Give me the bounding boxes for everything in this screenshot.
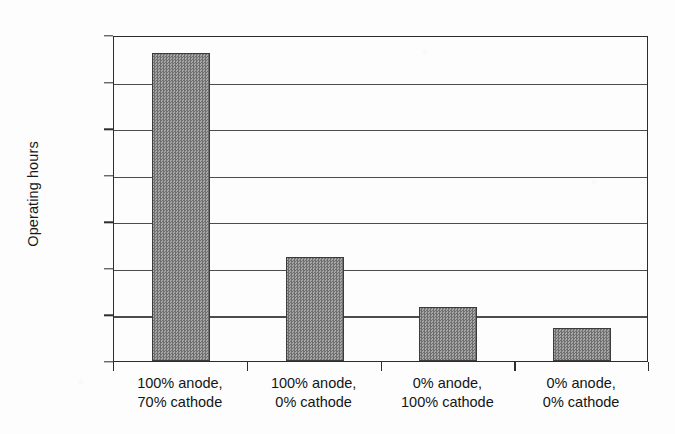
- x-axis-category-label-line: 0% anode,: [381, 374, 515, 393]
- x-axis-category-label-line: 0% anode,: [514, 374, 648, 393]
- y-axis-tick-mark: [104, 222, 113, 223]
- y-axis-tick-mark: [104, 361, 113, 362]
- x-axis-category-label-line: 0% cathode: [514, 393, 648, 412]
- y-axis-tick-mark: [104, 315, 113, 316]
- y-axis-tick-mark: [104, 268, 113, 269]
- bar: [286, 257, 344, 361]
- x-axis-tick-mark: [113, 362, 114, 371]
- x-axis-category-label-line: 100% cathode: [381, 393, 515, 412]
- y-axis-tick-mark: [104, 128, 113, 129]
- y-axis-tick-mark: [104, 35, 113, 36]
- x-axis-category-label: 100% anode,0% cathode: [247, 374, 381, 412]
- bar: [553, 328, 611, 361]
- x-axis-category-label: 0% anode,0% cathode: [514, 374, 648, 412]
- x-axis-tick-mark: [381, 362, 382, 371]
- x-axis-tick-mark: [648, 362, 649, 371]
- x-axis-category-label-line: 70% cathode: [113, 393, 247, 412]
- bar-chart: Operating hours 050010001500200025003000…: [0, 0, 675, 434]
- x-axis-tick-mark: [514, 362, 515, 371]
- y-axis-title: Operating hours: [25, 99, 41, 289]
- y-axis-tick-mark: [104, 175, 113, 176]
- x-axis-category-label-line: 100% anode,: [247, 374, 381, 393]
- x-axis-tick-mark: [247, 362, 248, 371]
- bar: [419, 307, 477, 361]
- plot-area: [113, 36, 648, 362]
- y-axis-tick-mark: [104, 82, 113, 83]
- x-axis-category-label-line: 0% cathode: [247, 393, 381, 412]
- x-axis-category-label: 0% anode,100% cathode: [381, 374, 515, 412]
- bar: [152, 53, 210, 361]
- x-axis-category-label-line: 100% anode,: [113, 374, 247, 393]
- x-axis-category-label: 100% anode,70% cathode: [113, 374, 247, 412]
